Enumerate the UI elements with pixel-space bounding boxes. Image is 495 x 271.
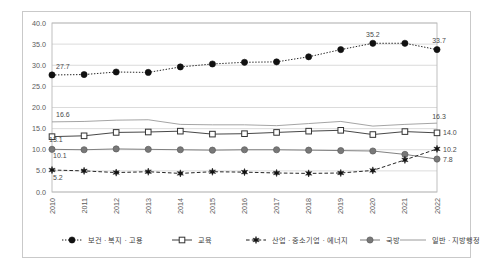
data-point-marker [274,130,280,136]
data-point-marker [402,156,408,163]
data-point-marker [49,72,55,78]
data-point-marker [338,128,344,134]
data-point-marker [434,130,440,136]
data-point-marker [179,237,185,243]
data-point-marker [434,145,440,152]
data-point-marker [210,131,216,137]
data-value-label: 33.7 [432,37,446,44]
x-axis-tick-label: 2011 [80,198,89,213]
y-axis-tick-label: 20.0 [32,103,46,112]
data-point-marker [81,147,87,153]
x-axis-tick-label: 2015 [208,198,217,214]
data-point-marker [434,156,440,162]
legend-label-2: 산업 · 중소기업 · 에너지 [272,236,348,245]
x-axis-tick-label: 2020 [368,198,377,214]
legend-label-4: 일반 · 지방행정 [432,236,480,245]
x-axis-tick-label: 2018 [304,198,313,214]
data-point-marker [273,59,279,65]
legend-label-3: 국방 [386,236,400,245]
data-point-marker [242,131,248,137]
data-value-label: 10.1 [53,152,67,159]
x-axis-tick-label: 2014 [176,198,185,214]
y-axis-tick-label: 15.0 [32,124,46,133]
data-point-marker [370,40,376,46]
data-point-marker [338,47,344,53]
y-axis-tick-label: 25.0 [32,82,46,91]
data-value-label: 7.8 [443,156,453,163]
data-point-marker [273,147,279,153]
data-point-marker [241,59,247,65]
data-point-marker [338,147,344,153]
data-point-marker [306,128,312,134]
x-axis-tick-label: 2012 [112,198,121,214]
y-axis-tick-label: 5.0 [36,166,46,175]
data-point-marker [145,69,151,75]
data-point-marker [113,146,119,152]
data-value-label: 35.2 [366,31,380,38]
series-line [52,120,437,126]
data-point-marker [113,130,119,136]
data-point-marker [434,47,440,53]
data-point-marker [113,69,119,75]
data-point-marker [178,128,184,134]
y-axis-tick-label: 0.0 [36,188,46,197]
x-axis-tick-label: 2022 [433,198,442,214]
data-point-marker [306,147,312,153]
x-axis-tick-label: 2019 [336,198,345,214]
data-value-label: 5.2 [53,174,63,181]
data-point-marker [370,132,376,138]
x-axis-tick-label: 2013 [144,198,153,214]
data-point-marker [367,237,373,243]
data-point-marker [81,133,87,139]
data-value-label: 16.3 [432,113,446,120]
legend-label-1: 교육 [198,236,212,245]
data-point-marker [209,61,215,67]
data-point-marker [177,147,183,153]
data-point-marker [241,147,247,153]
data-point-marker [145,146,151,152]
data-point-marker [370,148,376,154]
data-point-marker [177,64,183,70]
data-value-label: 13.1 [49,136,63,143]
legend-label-0: 보건 · 복지 · 고용 [88,236,143,245]
data-point-marker [81,71,87,77]
y-axis-tick-label: 10.0 [32,145,46,154]
data-point-marker [402,129,408,135]
chart-svg: 40.035.030.025.020.015.010.05.00.0201020… [0,0,495,271]
x-axis-tick-label: 2021 [400,198,409,214]
data-point-marker [145,129,151,135]
y-axis-tick-label: 30.0 [32,61,46,70]
x-axis-tick-label: 2017 [272,198,281,214]
data-point-marker [209,147,215,153]
x-axis-tick-label: 2016 [240,198,249,214]
y-axis-tick-label: 40.0 [32,19,46,28]
data-value-label: 10.2 [443,146,457,153]
data-value-label: 16.6 [56,111,70,118]
data-point-marker [370,167,376,174]
data-point-marker [402,40,408,46]
data-value-label: 27.7 [56,63,70,70]
data-value-label: 14.0 [443,129,457,136]
line-chart: 40.035.030.025.020.015.010.05.00.0201020… [0,0,495,271]
data-point-marker [69,237,75,243]
data-point-marker [306,54,312,60]
x-axis-tick-label: 2010 [48,198,57,214]
y-axis-tick-label: 35.0 [32,40,46,49]
